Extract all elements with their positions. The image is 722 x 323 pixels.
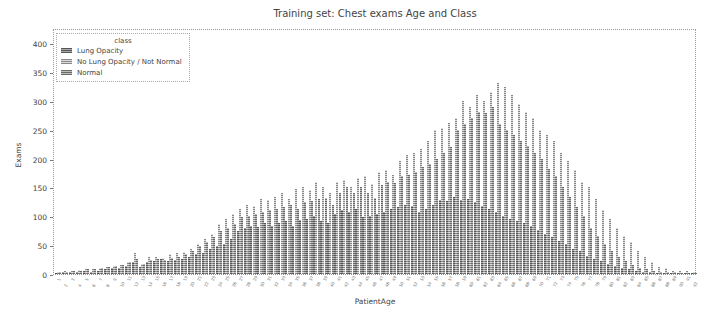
- x-tick-label: 92: [692, 281, 698, 287]
- x-tick-label: 15: [154, 275, 160, 281]
- legend: class Lung Opacity No Lung Opacity / Not…: [56, 33, 190, 82]
- x-tick-label: 52: [412, 281, 418, 287]
- bar: [548, 169, 550, 274]
- x-tick-label: 56: [440, 281, 446, 287]
- bar: [150, 260, 152, 274]
- y-tick-label: 150: [33, 184, 47, 193]
- y-tick-label: 0: [42, 271, 47, 280]
- bar: [562, 187, 564, 274]
- bar: [171, 258, 173, 274]
- bar: [304, 202, 306, 274]
- bar: [80, 271, 82, 274]
- x-tick-label: 51: [405, 275, 411, 281]
- bar: [590, 228, 592, 274]
- x-tick-label: 21: [196, 275, 202, 281]
- bar: [576, 207, 578, 274]
- x-tick-label: 22: [203, 281, 209, 287]
- x-tick-label: 6: [91, 284, 97, 288]
- bar: [59, 272, 61, 274]
- bar: [674, 272, 676, 274]
- bar: [471, 118, 473, 274]
- x-tick-label: 85: [643, 275, 649, 281]
- x-tick-label: 29: [252, 275, 258, 281]
- x-tick-label: 83: [629, 275, 635, 281]
- x-tick-label: 75: [573, 275, 579, 281]
- x-tick-label: 19: [182, 275, 188, 281]
- chart-title: Training set: Chest exams Age and Class: [0, 8, 722, 19]
- x-tick-label: 70: [538, 281, 544, 287]
- x-tick-label: 63: [489, 275, 495, 281]
- bar: [262, 212, 264, 274]
- x-axis-label: PatientAge: [0, 297, 722, 306]
- x-tick-label: 44: [357, 281, 363, 287]
- bar: [688, 273, 690, 274]
- x-tick-label: 34: [287, 281, 293, 287]
- x-tick-label: 87: [657, 275, 663, 281]
- bar: [227, 228, 229, 274]
- x-tick-label: 38: [315, 281, 321, 287]
- bar: [332, 205, 334, 274]
- x-tick-label: 64: [496, 281, 502, 287]
- y-tick-label: 50: [37, 242, 47, 251]
- x-tick-label: 43: [350, 275, 356, 281]
- x-tick-label: 72: [552, 281, 558, 287]
- bar: [422, 167, 424, 274]
- y-tick-label: 100: [33, 213, 47, 222]
- x-tick-label: 10: [119, 281, 125, 287]
- x-tick-label: 61: [475, 275, 481, 281]
- bar: [555, 176, 557, 274]
- x-tick-label: 9: [112, 278, 118, 282]
- bar: [122, 265, 124, 274]
- x-tick-label: 45: [364, 275, 370, 281]
- bar: [94, 269, 96, 274]
- bar: [339, 193, 341, 274]
- bar: [346, 187, 348, 274]
- bar: [66, 272, 68, 274]
- x-tick-label: 81: [615, 275, 621, 281]
- x-tick-label: 80: [608, 281, 614, 287]
- bar: [457, 130, 459, 274]
- x-tick-label: 35: [294, 275, 300, 281]
- x-tick-label: 77: [587, 275, 593, 281]
- x-tick-label: 18: [175, 281, 181, 287]
- bar: [387, 182, 389, 274]
- x-tick-label: 62: [482, 281, 488, 287]
- bar: [101, 268, 103, 274]
- x-tick-label: 12: [133, 281, 139, 287]
- bar: [429, 164, 431, 274]
- x-tick-label: 7: [98, 278, 104, 282]
- bar: [506, 130, 508, 274]
- bar: [464, 124, 466, 274]
- x-tick-label: 60: [468, 281, 474, 287]
- x-tick-label: 55: [433, 275, 439, 281]
- x-tick-label: 24: [217, 281, 223, 287]
- bar: [297, 209, 299, 274]
- bar: [583, 216, 585, 274]
- legend-item-normal: Normal: [61, 67, 189, 78]
- bar: [367, 193, 369, 274]
- x-tick-label: 28: [245, 281, 251, 287]
- x-tick-label: 73: [559, 275, 565, 281]
- bar: [136, 259, 138, 274]
- x-tick-label: 89: [671, 275, 677, 281]
- bar: [450, 147, 452, 274]
- y-tick-label: 350: [33, 68, 47, 77]
- bar: [283, 207, 285, 274]
- bar: [478, 112, 480, 274]
- x-tick-label: 41: [336, 275, 342, 281]
- bar: [618, 257, 620, 274]
- x-tick-label: 30: [259, 281, 265, 287]
- bar: [325, 198, 327, 274]
- bar: [394, 183, 396, 274]
- bar: [401, 176, 403, 274]
- x-tick-label: 79: [601, 275, 607, 281]
- bar: [115, 266, 117, 274]
- x-tick-label: 31: [266, 275, 272, 281]
- x-tick-label: 3: [70, 278, 76, 282]
- bar: [632, 265, 634, 274]
- bar: [234, 224, 236, 274]
- bar: [178, 257, 180, 274]
- x-tick-label: 76: [580, 281, 586, 287]
- bar: [157, 259, 159, 274]
- x-tick-label: 5: [84, 278, 90, 282]
